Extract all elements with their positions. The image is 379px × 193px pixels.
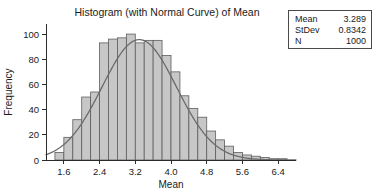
y-tick-label: 40 xyxy=(28,104,39,115)
stats-label: Mean xyxy=(295,14,318,25)
y-tick-label: 80 xyxy=(28,54,39,65)
stats-label: N xyxy=(295,36,302,47)
x-tick-label: 6.4 xyxy=(272,166,285,177)
histogram-bar xyxy=(82,97,91,160)
x-tick-label: 4.8 xyxy=(200,166,213,177)
histogram-bar xyxy=(109,39,118,160)
x-tick-label: 2.4 xyxy=(93,166,106,177)
stats-row: Mean3.289 xyxy=(295,14,366,25)
histogram-bar xyxy=(180,96,189,160)
x-tick-label: 1.6 xyxy=(57,166,70,177)
y-axis-ticks: 020406080100 xyxy=(23,29,46,166)
x-tick-label: 4.0 xyxy=(164,166,177,177)
stats-value: 3.289 xyxy=(343,14,366,25)
y-axis-title: Frequency xyxy=(3,68,14,115)
histogram-bar xyxy=(91,92,100,160)
stats-row: N1000 xyxy=(295,36,366,47)
y-tick-label: 0 xyxy=(34,155,39,166)
x-tick-label: 3.2 xyxy=(129,166,142,177)
histogram-bar xyxy=(162,55,171,160)
histogram-bar xyxy=(135,43,144,160)
y-tick-label: 20 xyxy=(28,129,39,140)
x-tick-label: 5.6 xyxy=(236,166,249,177)
histogram-bar xyxy=(144,40,153,160)
histogram-bar xyxy=(126,34,135,160)
histogram-figure: Histogram (with Normal Curve) of Mean 02… xyxy=(0,0,379,193)
histogram-bar xyxy=(207,131,216,160)
stats-value: 1000 xyxy=(346,36,366,47)
histogram-bars xyxy=(55,34,287,160)
page-title: Histogram (with Normal Curve) of Mean xyxy=(75,6,260,18)
stats-row: StDev0.8342 xyxy=(295,25,366,36)
histogram-bar xyxy=(198,117,207,160)
stats-value: 0.8342 xyxy=(338,25,366,36)
statistics-box: Mean3.289StDev0.8342N1000 xyxy=(288,10,372,49)
y-tick-label: 100 xyxy=(23,29,39,40)
x-axis-title: Mean xyxy=(158,179,183,190)
histogram-bar xyxy=(55,152,64,160)
histogram-bar xyxy=(189,108,198,160)
stats-label: StDev xyxy=(295,25,320,36)
histogram-bar xyxy=(100,43,109,160)
x-axis-ticks: 1.62.43.24.04.85.66.4 xyxy=(57,160,284,177)
y-tick-label: 60 xyxy=(28,79,39,90)
